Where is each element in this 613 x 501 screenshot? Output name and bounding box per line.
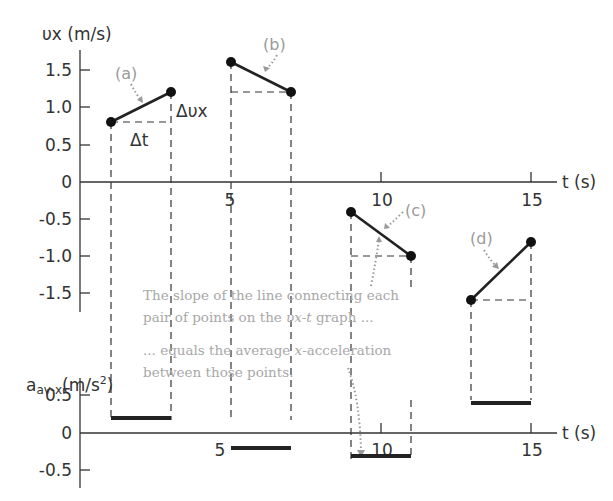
- svg-text:0.5: 0.5: [45, 135, 72, 155]
- arrowhead-icon: [384, 223, 390, 229]
- acceleration-x-ticks: [381, 423, 531, 433]
- label-c: (c): [405, 201, 426, 220]
- label-b: (b): [263, 35, 286, 54]
- svg-text:10: 10: [371, 190, 393, 210]
- svg-text:0: 0: [61, 172, 72, 192]
- callout-arrow-a: [131, 84, 141, 100]
- velocity-graph: υx (m/s) 1.5 1.0 0.5 0 -0.5 -1.0 -1.5: [39, 24, 596, 460]
- svg-text:-0.5: -0.5: [39, 460, 72, 480]
- svg-text:1.0: 1.0: [45, 97, 72, 117]
- callout-arrow-accel: [348, 368, 361, 452]
- data-point: [286, 87, 296, 97]
- arrowhead-icon: [137, 96, 143, 103]
- callout-arrow-b: [267, 55, 277, 68]
- svg-text:-1.5: -1.5: [39, 283, 72, 303]
- callout-arrow-d: [484, 250, 496, 266]
- data-point: [106, 117, 116, 127]
- velocity-x-ticks: [381, 172, 531, 182]
- accel-note-line2: between those points.: [143, 364, 293, 380]
- velocity-y-tick-labels: 1.5 1.0 0.5 0 -0.5 -1.0 -1.5: [39, 60, 72, 303]
- accel-note-line1: ... equals the average x-acceleration: [143, 342, 392, 358]
- callout-arrow-slope: [371, 240, 379, 286]
- arrowhead-icon: [376, 236, 382, 242]
- svg-text:5: 5: [225, 190, 236, 210]
- data-point: [226, 57, 236, 67]
- acceleration-time-axis-title: t (s): [562, 423, 596, 443]
- svg-text:0: 0: [61, 423, 72, 443]
- velocity-time-axis-title: t (s): [562, 172, 596, 192]
- acceleration-graph: aav-x(m/s2) 0.5 0 -0.5 5 10 15 t (s): [26, 374, 596, 488]
- delta-t-label: Δt: [130, 130, 149, 150]
- data-point: [346, 207, 356, 217]
- slope-note-line2: pair of points on the υx-t graph ...: [143, 309, 374, 325]
- svg-text:-0.5: -0.5: [39, 209, 72, 229]
- data-point: [526, 237, 536, 247]
- label-d: (d): [470, 229, 493, 248]
- segment-b: (b): [226, 35, 296, 420]
- segment-c: (c): [346, 201, 426, 460]
- svg-text:1.5: 1.5: [45, 60, 72, 80]
- slope-note-line1: The slope of the line connecting each: [143, 287, 399, 303]
- velocity-axis-title: υx (m/s): [42, 24, 112, 44]
- arrowhead-icon: [492, 262, 499, 269]
- annotation-text: The slope of the line connecting each pa…: [143, 287, 399, 457]
- velocity-acceleration-diagram: υx (m/s) 1.5 1.0 0.5 0 -0.5 -1.0 -1.5: [0, 0, 613, 501]
- svg-text:0.5: 0.5: [45, 385, 72, 405]
- callout-arrow-c: [388, 212, 403, 226]
- svg-text:-1.0: -1.0: [39, 246, 72, 266]
- delta-v-label: Δυx: [176, 101, 208, 121]
- svg-text:15: 15: [521, 190, 543, 210]
- label-a: (a): [115, 64, 137, 83]
- svg-text:15: 15: [521, 440, 543, 460]
- arrowhead-icon: [263, 66, 270, 72]
- segment-d: (d): [466, 229, 536, 400]
- svg-text:5: 5: [215, 440, 226, 460]
- data-point: [406, 251, 416, 261]
- data-point: [166, 87, 176, 97]
- acceleration-y-tick-labels: 0.5 0 -0.5: [39, 385, 72, 480]
- data-point: [466, 295, 476, 305]
- velocity-x-tick-labels: 5 10 15: [225, 190, 543, 210]
